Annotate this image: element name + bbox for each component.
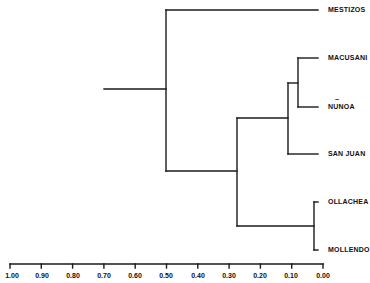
tick-label: 1.00: [5, 272, 19, 280]
tick-label: 0.40: [191, 272, 205, 280]
leaf-label-macusani: MACUSANI: [328, 54, 367, 62]
tick-label: 0.90: [35, 272, 49, 280]
tick-label: 0.10: [284, 272, 298, 280]
leaf-label-mestizos: MESTIZOS: [328, 6, 365, 14]
leaf-label-nunoa: NUNOA: [328, 103, 355, 111]
tick-label: 0.80: [66, 272, 80, 280]
leaf-label-san-juan: SAN JUAN: [328, 150, 365, 158]
leaf-label-ollachea: OLLACHEA: [328, 198, 369, 206]
dendrogram: [0, 0, 370, 283]
tick-label: 0.50: [159, 272, 173, 280]
leaf-label-mollendo: MOLLENDO: [328, 246, 370, 254]
tick-label: 0.20: [253, 272, 267, 280]
tick-label: 0.30: [222, 272, 236, 280]
tick-label: 0.00: [316, 272, 330, 280]
tick-label: 0.70: [97, 272, 111, 280]
tick-label: 0.60: [128, 272, 142, 280]
